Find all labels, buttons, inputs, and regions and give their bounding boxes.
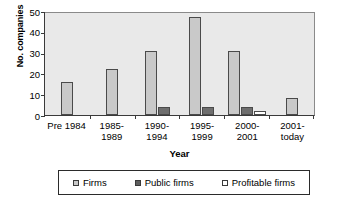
legend-label: Profitable firms: [232, 177, 295, 188]
x-axis-tick-mark: [135, 115, 136, 119]
x-axis-tick-label: 1995-1999: [180, 120, 225, 146]
legend-swatch-profitable: [222, 180, 228, 186]
bar-public: [241, 107, 253, 115]
bar-group: [90, 13, 135, 115]
x-axis-tick-label: 2001-today: [270, 120, 315, 146]
x-axis-tick-label-line: 1989: [89, 131, 134, 142]
x-axis-tick-label-line: 2001-: [270, 120, 315, 131]
bar-group: [135, 13, 180, 115]
x-axis-title: Year: [44, 148, 315, 159]
bar-group: [224, 13, 269, 115]
x-axis-tick-label-line: 1985-: [89, 120, 134, 131]
x-axis-tick-label-line: 1995-: [180, 120, 225, 131]
legend-item: Public firms: [135, 177, 194, 188]
x-axis-tick-mark: [269, 115, 270, 119]
bar-group: [179, 13, 224, 115]
plot-area: [44, 12, 315, 116]
y-axis-tick-label: 40: [20, 28, 40, 37]
y-axis-tick-label: 50: [20, 8, 40, 17]
x-axis-tick-mark: [313, 115, 314, 119]
x-axis-tick-label: 1985-1989: [89, 120, 134, 146]
y-axis-tick-mark: [41, 33, 45, 34]
x-axis-tick-label: 2000-2001: [225, 120, 270, 146]
legend-label: Firms: [83, 177, 107, 188]
x-axis-tick-label-line: 2000-: [225, 120, 270, 131]
x-axis-tick-mark: [179, 115, 180, 119]
x-axis-tick-label-line: Pre 1984: [44, 120, 89, 131]
y-axis-tick-mark: [41, 95, 45, 96]
bar-firms: [106, 69, 118, 115]
legend-item: Firms: [73, 177, 107, 188]
x-axis-tick-label-line: today: [270, 131, 315, 142]
legend-label: Public firms: [145, 177, 194, 188]
legend-item: Profitable firms: [222, 177, 295, 188]
chart-legend: FirmsPublic firmsProfitable firms: [58, 170, 310, 195]
y-axis-tick-mark: [41, 74, 45, 75]
x-axis-tick-label-line: 1994: [134, 131, 179, 142]
x-axis-tick-mark: [90, 115, 91, 119]
x-axis-tick-label-line: 1999: [180, 131, 225, 142]
x-axis-tick-label-line: 1990-: [134, 120, 179, 131]
legend-swatch-firms: [73, 180, 79, 186]
legend-swatch-public: [135, 180, 141, 186]
bar-firms: [286, 98, 298, 115]
bar-firms: [61, 82, 73, 115]
y-axis-tick-mark: [41, 12, 45, 13]
bar-firms: [228, 51, 240, 115]
x-axis-tick-label: 1990-1994: [134, 120, 179, 146]
bar-firms: [145, 51, 157, 115]
y-axis-tick-mark: [41, 116, 45, 117]
bar-public: [202, 107, 214, 115]
bar-public: [158, 107, 170, 115]
y-axis-tick-label: 30: [20, 49, 40, 58]
y-axis-tick-label: 0: [20, 112, 40, 121]
bar-firms: [189, 17, 201, 115]
x-axis-tick-mark: [224, 115, 225, 119]
bar-group: [269, 13, 314, 115]
x-axis-tick-labels: Pre 19841985-19891990-19941995-19992000-…: [44, 120, 315, 146]
bar-profitable: [254, 111, 266, 115]
y-axis-tick-label: 20: [20, 70, 40, 79]
bar-chart: No. companies 01020304050 Pre 19841985-1…: [0, 0, 337, 211]
bar-groups: [45, 13, 314, 115]
y-axis-tick-label: 10: [20, 91, 40, 100]
bar-group: [45, 13, 90, 115]
y-axis-tick-labels: 01020304050: [20, 8, 40, 116]
y-axis-tick-mark: [41, 54, 45, 55]
x-axis-tick-label-line: 2001: [225, 131, 270, 142]
x-axis-tick-label: Pre 1984: [44, 120, 89, 146]
